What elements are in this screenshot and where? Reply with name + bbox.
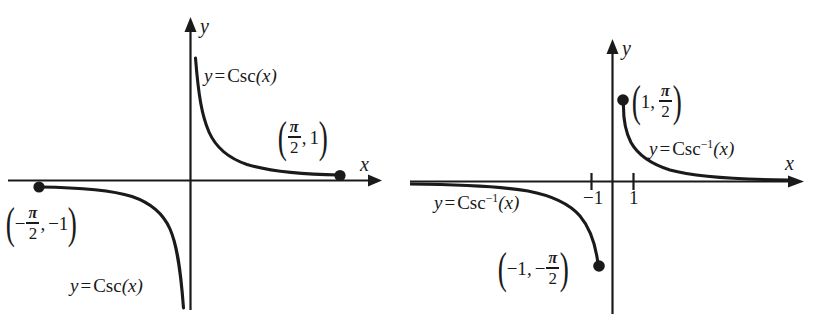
coord-y-value: −1 bbox=[48, 214, 68, 233]
coord-y-value: 1 bbox=[309, 128, 319, 147]
y-axis-label: y bbox=[200, 16, 209, 36]
left-paren-icon: ( bbox=[6, 206, 15, 241]
csc-lower-endpoint-dot bbox=[33, 181, 44, 192]
fraction-denominator: 2 bbox=[547, 270, 560, 287]
coord-x-value: 1 bbox=[641, 92, 651, 111]
coord-x-value: −1 bbox=[507, 259, 527, 278]
pi-over-2-fraction: π 2 bbox=[288, 119, 301, 156]
left-paren-icon: ( bbox=[632, 84, 641, 119]
csc-upper-endpoint-dot bbox=[334, 170, 345, 181]
arccsc-lower-endpoint-dot bbox=[593, 260, 605, 272]
arccsc-graph-svg bbox=[410, 0, 820, 324]
fraction-denominator: 2 bbox=[659, 103, 672, 120]
coord-comma: , bbox=[40, 214, 48, 233]
csc-label-upper-op: = bbox=[212, 65, 227, 86]
x-tick-label-positive-one: 1 bbox=[629, 188, 639, 207]
csc-label-lower-op: = bbox=[78, 275, 93, 296]
y-axis-label: y bbox=[622, 38, 631, 58]
csc-point-label-lower: ( − π 2 , −1 ) bbox=[6, 205, 77, 242]
arccsc-label-upper-arg: (x) bbox=[713, 138, 734, 159]
fraction-numerator: π bbox=[288, 119, 301, 135]
csc-curve-label-upper: y=Csc(x) bbox=[204, 66, 277, 85]
x-axis bbox=[8, 175, 382, 187]
fraction-numerator: π bbox=[546, 250, 559, 266]
coord-comma: , bbox=[302, 128, 310, 147]
right-paren-icon: ) bbox=[673, 84, 682, 119]
csc-label-lower-arg: (x) bbox=[122, 275, 143, 296]
pi-over-2-fraction: π 2 bbox=[546, 250, 559, 287]
figure-container: y x y=Csc(x) y=Csc(x) ( π 2 , 1 ) ( − bbox=[0, 0, 820, 324]
coord-x-sign: − bbox=[15, 214, 26, 233]
arccsc-label-lower-exponent: −1 bbox=[486, 192, 499, 205]
fraction-denominator: 2 bbox=[27, 225, 40, 242]
csc-point-label-upper: ( π 2 , 1 ) bbox=[278, 119, 328, 156]
arccsc-point-label-upper: ( 1 , π 2 ) bbox=[632, 83, 682, 120]
csc-graph-svg bbox=[0, 0, 410, 324]
arccsc-curve-label-lower: y=Csc−1(x) bbox=[434, 193, 519, 212]
left-paren-icon: ( bbox=[498, 251, 507, 286]
arccsc-upper-endpoint-dot bbox=[617, 94, 629, 106]
arccsc-label-lower-op: = bbox=[442, 192, 457, 213]
y-axis bbox=[607, 39, 619, 314]
arccsc-curve-label-upper: y=Csc−1(x) bbox=[649, 139, 734, 158]
fraction-numerator: π bbox=[27, 205, 40, 221]
right-paren-icon: ) bbox=[319, 120, 328, 155]
csc-curve-label-lower: y=Csc(x) bbox=[70, 276, 143, 295]
arccsc-graph-panel: y x −1 1 y=Csc−1(x) y=Csc−1(x) ( 1 , π 2… bbox=[410, 0, 820, 324]
arccsc-label-upper-fn: Csc bbox=[672, 138, 701, 159]
right-paren-icon: ) bbox=[560, 251, 569, 286]
pi-over-2-fraction: π 2 bbox=[26, 205, 39, 242]
csc-label-upper-fn: Csc bbox=[227, 65, 256, 86]
arccsc-label-upper-op: = bbox=[657, 138, 672, 159]
coord-comma: , bbox=[650, 92, 658, 111]
right-paren-icon: ) bbox=[68, 206, 77, 241]
csc-label-lower-fn: Csc bbox=[93, 275, 122, 296]
x-axis-label: x bbox=[785, 153, 794, 173]
arccsc-label-lower-fn: Csc bbox=[457, 192, 486, 213]
pi-over-2-fraction: π 2 bbox=[659, 83, 672, 120]
coord-y-sign: − bbox=[535, 259, 546, 278]
csc-label-upper-arg: (x) bbox=[256, 65, 277, 86]
x-axis-label: x bbox=[360, 154, 369, 174]
csc-graph-panel: y x y=Csc(x) y=Csc(x) ( π 2 , 1 ) ( − bbox=[0, 0, 410, 324]
coord-comma: , bbox=[527, 259, 535, 278]
arccsc-label-lower-arg: (x) bbox=[498, 192, 519, 213]
arccsc-label-upper-exponent: −1 bbox=[701, 138, 714, 151]
left-paren-icon: ( bbox=[278, 120, 287, 155]
fraction-denominator: 2 bbox=[288, 139, 301, 156]
fraction-numerator: π bbox=[659, 83, 672, 99]
arccsc-point-label-lower: ( −1 , − π 2 ) bbox=[498, 250, 569, 287]
x-tick-label-negative-one: −1 bbox=[583, 188, 603, 207]
